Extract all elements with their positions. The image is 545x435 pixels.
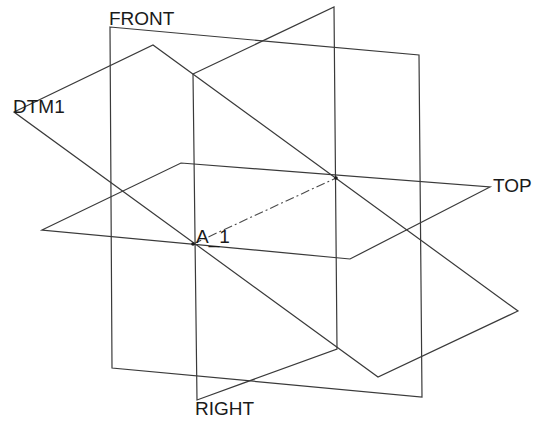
front-datum-plane[interactable] — [110, 27, 422, 397]
a1-axis-label[interactable]: A_1 — [196, 227, 230, 246]
right-datum-plane[interactable] — [193, 7, 337, 400]
axis-endpoint-lower — [191, 242, 195, 246]
right-plane-label[interactable]: RIGHT — [195, 399, 254, 418]
axis-endpoint-upper — [334, 176, 338, 180]
dtm1-plane-label[interactable]: DTM1 — [13, 97, 65, 116]
front-plane-label[interactable]: FRONT — [109, 9, 174, 28]
datum-plane-canvas[interactable] — [0, 0, 545, 435]
top-datum-plane[interactable] — [42, 163, 490, 259]
top-plane-label[interactable]: TOP — [493, 176, 532, 195]
